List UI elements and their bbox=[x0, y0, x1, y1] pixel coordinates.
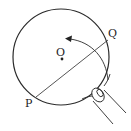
arrowhead-icon bbox=[65, 36, 72, 43]
label-q: Q bbox=[108, 27, 117, 40]
label-o: O bbox=[56, 46, 65, 59]
circle-fold-diagram: O Q P bbox=[0, 0, 131, 131]
label-p: P bbox=[25, 97, 33, 110]
finger-icon bbox=[82, 74, 126, 124]
fold-arrow bbox=[70, 39, 108, 80]
